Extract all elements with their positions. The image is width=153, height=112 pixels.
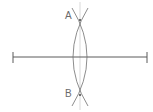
point-a-label: A <box>65 10 72 21</box>
point-b-marker <box>79 94 81 96</box>
point-a-marker <box>79 19 81 21</box>
point-b-label: B <box>65 88 72 99</box>
construction-diagram: A B <box>0 0 153 112</box>
